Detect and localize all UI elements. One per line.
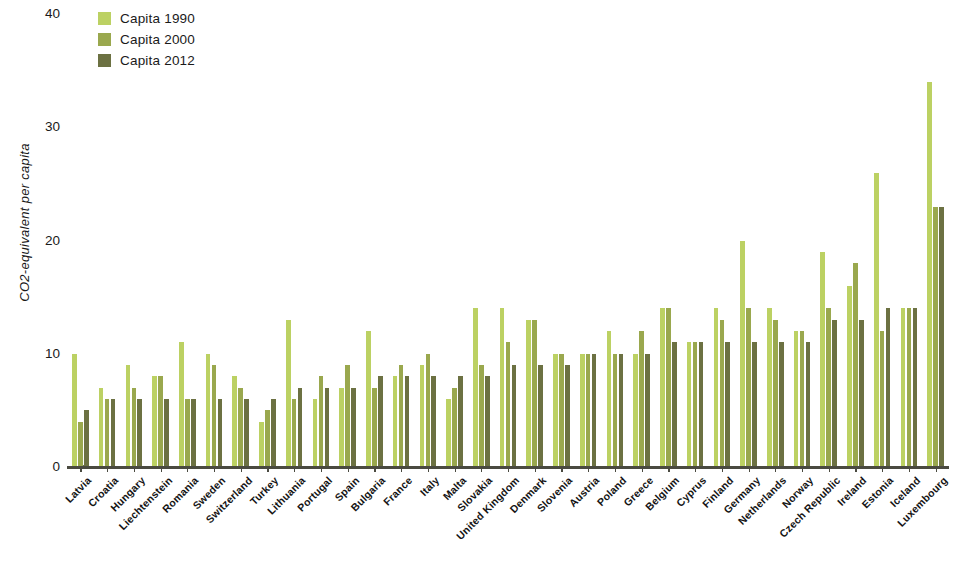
x-axis-tick-mark xyxy=(241,468,242,472)
x-axis-labels: LatviaCroatiaHungaryLiechtensteinRomania… xyxy=(0,0,956,578)
x-axis-tick-mark xyxy=(936,468,937,472)
x-axis-tick-mark xyxy=(775,468,776,472)
x-axis-tick-mark xyxy=(642,468,643,472)
x-axis-tick-mark xyxy=(855,468,856,472)
x-axis-tick-mark xyxy=(588,468,589,472)
x-axis-tick-mark xyxy=(294,468,295,472)
x-axis-tick-mark xyxy=(668,468,669,472)
x-axis-tick-mark xyxy=(187,468,188,472)
x-axis-tick-mark xyxy=(695,468,696,472)
x-axis-tick-mark xyxy=(481,468,482,472)
x-axis-tick-mark xyxy=(455,468,456,472)
x-axis-tick-mark xyxy=(508,468,509,472)
x-axis-tick-mark xyxy=(107,468,108,472)
x-axis-tick-mark xyxy=(749,468,750,472)
x-axis-tick-mark xyxy=(428,468,429,472)
x-axis-tick-mark xyxy=(535,468,536,472)
x-axis-tick-mark xyxy=(134,468,135,472)
x-axis-tick-mark xyxy=(214,468,215,472)
x-axis-tick-mark xyxy=(161,468,162,472)
x-axis-tick-mark xyxy=(909,468,910,472)
x-axis-tick-mark xyxy=(829,468,830,472)
x-axis-tick-mark xyxy=(80,468,81,472)
co2-per-capita-bar-chart: Capita 1990 Capita 2000 Capita 2012 CO2-… xyxy=(0,0,956,578)
x-axis-tick-mark xyxy=(401,468,402,472)
x-axis-tick-mark xyxy=(561,468,562,472)
x-axis-tick-mark xyxy=(321,468,322,472)
x-axis-tick-mark xyxy=(615,468,616,472)
x-axis-tick-mark xyxy=(348,468,349,472)
x-axis-tick-label: Italy xyxy=(417,474,441,498)
x-axis-tick-mark xyxy=(882,468,883,472)
x-axis-tick-mark xyxy=(802,468,803,472)
x-axis-tick-mark xyxy=(374,468,375,472)
x-axis-tick-label: France xyxy=(381,474,415,508)
x-axis-tick-mark xyxy=(267,468,268,472)
x-axis-tick-mark xyxy=(722,468,723,472)
